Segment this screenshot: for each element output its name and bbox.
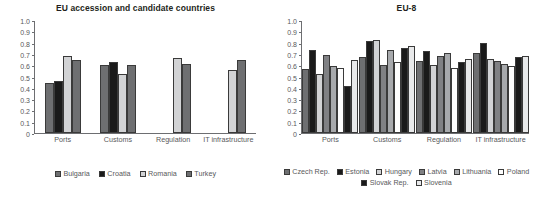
bar [401, 48, 408, 133]
legend-item: Estonia [337, 166, 369, 177]
legend-item: Hungary [376, 166, 412, 177]
bar [487, 59, 494, 133]
legend-label: Romania [148, 168, 177, 179]
bar-group [146, 21, 201, 133]
y-tick-mark [32, 123, 35, 124]
bar [302, 69, 309, 133]
legend-swatch [416, 180, 422, 186]
x-tick-label: Regulation [416, 135, 473, 144]
legend-label: Turkey [194, 168, 216, 179]
bar [45, 83, 54, 133]
bar [127, 65, 136, 133]
y-tick-mark [32, 134, 35, 135]
legend-swatch [361, 180, 367, 186]
x-tick-label: Ports [35, 135, 90, 144]
y-tick-mark [299, 21, 302, 22]
bar [394, 62, 401, 133]
chart-panel-eu-8: EU-8 1.00.90.80.70.60.50.40.30.20.10 Por… [271, 0, 542, 200]
chart-title: EU-8 [271, 3, 542, 13]
y-tick-mark [32, 32, 35, 33]
bar [63, 56, 72, 133]
bar [465, 59, 472, 133]
bar-group [201, 21, 256, 133]
y-tick-mark [32, 78, 35, 79]
bar [337, 68, 344, 133]
y-tick-mark [32, 111, 35, 112]
bar [373, 40, 380, 133]
legend-swatch [337, 169, 343, 175]
bar-group [35, 21, 90, 133]
legend-swatch [419, 169, 425, 175]
y-tick-mark [32, 66, 35, 67]
bar [100, 65, 109, 133]
legend-item: Latvia [419, 166, 447, 177]
bar [501, 64, 508, 133]
bar [72, 60, 81, 133]
legend-label: Lithuania [462, 166, 491, 177]
x-axis [301, 133, 529, 134]
legend-swatch [454, 169, 460, 175]
legend-label: Latvia [427, 166, 446, 177]
bar [330, 66, 337, 133]
legend-label: Croatia [107, 168, 130, 179]
y-tick-mark [32, 100, 35, 101]
bar [444, 53, 451, 133]
legend-item: Slovak Rep. [361, 177, 408, 188]
bar [182, 64, 191, 133]
bar [387, 50, 394, 133]
bar [473, 53, 480, 133]
bar-group [302, 21, 359, 133]
legend-swatch [99, 171, 105, 177]
legend-item: Czech Rep. [284, 166, 330, 177]
bar [366, 41, 373, 133]
chart-legend: Czech Rep.EstoniaHungaryLatviaLithuaniaP… [271, 166, 542, 188]
bar-group [359, 21, 416, 133]
legend-label: Bulgaria [63, 168, 89, 179]
y-tick-mark [299, 66, 302, 67]
bar [522, 56, 529, 133]
legend-label: Slovak Rep. [370, 177, 409, 188]
bar [458, 62, 465, 133]
bar-groups [302, 21, 529, 133]
legend-label: Poland [507, 166, 529, 177]
bar [109, 62, 118, 133]
bar [508, 66, 515, 133]
x-tick-label: IT infrastructure [472, 135, 529, 144]
legend-swatch [140, 171, 146, 177]
bar [351, 60, 358, 133]
bar [494, 61, 501, 133]
legend-swatch [284, 169, 290, 175]
y-tick-mark [32, 44, 35, 45]
bar-group [416, 21, 473, 133]
bar-group [90, 21, 145, 133]
x-tick-label: Customs [90, 135, 145, 144]
bar [323, 55, 330, 133]
legend-swatch [55, 171, 61, 177]
bar [237, 60, 246, 133]
y-tick-mark [299, 134, 302, 135]
chart-panel-eu-accession: EU accession and candidate countries 1.0… [0, 0, 271, 200]
legend-item: Slovenia [416, 177, 452, 188]
y-tick-mark [299, 44, 302, 45]
y-tick-mark [299, 78, 302, 79]
y-tick-mark [299, 123, 302, 124]
x-tick-label: Customs [359, 135, 416, 144]
bar [380, 65, 387, 133]
x-tick-label: IT infrastructure [201, 135, 256, 144]
legend-item: Romania [140, 168, 177, 179]
bar [515, 57, 522, 133]
bar [423, 51, 430, 133]
bar [416, 61, 423, 133]
bar-groups [35, 21, 256, 133]
y-tick-mark [299, 89, 302, 90]
chart-title: EU accession and candidate countries [0, 3, 271, 13]
y-tick-mark [299, 32, 302, 33]
legend-swatch [186, 171, 192, 177]
figure-two-bar-charts: EU accession and candidate countries 1.0… [0, 0, 542, 200]
bar [344, 86, 351, 133]
legend-label: Hungary [385, 166, 412, 177]
x-axis [34, 133, 256, 134]
legend-item: Lithuania [454, 166, 492, 177]
legend-label: Slovenia [424, 177, 452, 188]
legend-swatch [376, 169, 382, 175]
